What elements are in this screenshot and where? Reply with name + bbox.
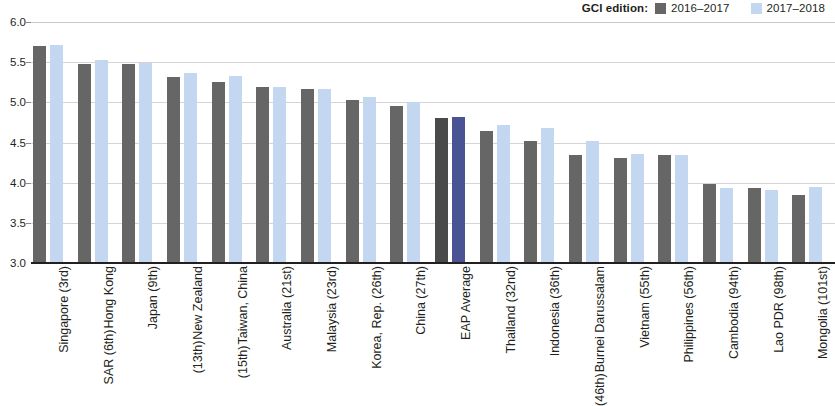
x-axis-tick-label: Lao PDR (98th) (772, 266, 835, 400)
bar-2017-2018[interactable] (229, 76, 242, 263)
chart-legend: GCI edition: 2016–2017 2017–2018 (582, 2, 825, 14)
y-axis-tick-label: 5.0 (0, 96, 26, 108)
bar-2016-2017[interactable] (703, 184, 716, 263)
bar-2017-2018[interactable] (318, 89, 331, 263)
bar-groups (31, 22, 835, 263)
bar-2016-2017[interactable] (390, 106, 403, 263)
bar-2017-2018[interactable] (497, 125, 510, 263)
bar-2016-2017[interactable] (658, 155, 671, 263)
bar-group[interactable] (210, 22, 255, 263)
bar-2016-2017[interactable] (435, 118, 448, 263)
bar-2016-2017[interactable] (614, 158, 627, 263)
x-axis-tick-label: China (27th) (414, 266, 548, 400)
x-axis-tick-label: Taiwan, China(15th) (236, 266, 370, 400)
bar-2017-2018[interactable] (675, 155, 688, 263)
bar-2016-2017[interactable] (792, 195, 805, 263)
bar-2017-2018[interactable] (184, 73, 197, 263)
bar-2016-2017[interactable] (167, 77, 180, 263)
bar-2016-2017[interactable] (256, 87, 269, 263)
x-axis-labels: Singapore (3rd)Hong KongSAR (6th)Japan (… (31, 266, 835, 400)
bar-2016-2017[interactable] (122, 64, 135, 263)
x-axis-tick-label: Philippines (56th) (682, 266, 816, 400)
x-axis-tick-label: Malaysia (23rd) (325, 266, 459, 400)
bar-2017-2018[interactable] (273, 87, 286, 263)
bar-group[interactable] (701, 22, 746, 263)
bar-2017-2018[interactable] (50, 45, 63, 263)
bar-2017-2018[interactable] (586, 141, 599, 263)
bar-2017-2018[interactable] (452, 117, 465, 263)
bar-group[interactable] (790, 22, 835, 263)
bar-2016-2017[interactable] (33, 46, 46, 263)
bar-group[interactable] (254, 22, 299, 263)
bar-group[interactable] (299, 22, 344, 263)
y-axis-tick-label: 3.0 (0, 257, 26, 269)
legend-swatch-prev (655, 3, 666, 14)
bar-group[interactable] (612, 22, 657, 263)
y-axis-tick-label: 3.5 (0, 217, 26, 229)
plot-area (31, 22, 835, 263)
x-axis-tick-label: Thailand (32nd) (504, 266, 638, 400)
legend-title: GCI edition: (582, 2, 648, 14)
x-axis-tick-label: Korea, Rep. (26th) (370, 266, 504, 400)
legend-entry-prev: 2016–2017 (655, 2, 729, 14)
bar-2016-2017[interactable] (748, 188, 761, 263)
legend-entry-curr: 2017–2018 (751, 2, 825, 14)
bar-group[interactable] (656, 22, 701, 263)
bar-2017-2018[interactable] (139, 63, 152, 263)
bar-group[interactable] (388, 22, 433, 263)
bar-2017-2018[interactable] (720, 188, 733, 263)
bar-2016-2017[interactable] (212, 82, 225, 263)
bar-2017-2018[interactable] (631, 154, 644, 263)
y-axis-tick-label: 4.5 (0, 137, 26, 149)
x-axis-tick-label: Australia (21st) (280, 266, 414, 400)
x-axis-tick-label: Japan (9th) (146, 266, 280, 400)
y-axis-tick-label: 6.0 (0, 16, 26, 28)
bar-group[interactable] (31, 22, 76, 263)
legend-label-curr: 2017–2018 (767, 2, 825, 14)
bar-2017-2018[interactable] (95, 60, 108, 263)
bar-group[interactable] (344, 22, 389, 263)
bar-2016-2017[interactable] (346, 100, 359, 263)
x-axis-tick-label: Hong KongSAR (6th) (102, 266, 236, 400)
x-axis-tick-label: Indonesia (36th) (548, 266, 682, 400)
bar-2017-2018[interactable] (363, 97, 376, 263)
x-axis-tick-label: Cambodia (94th) (727, 266, 835, 400)
bar-2016-2017[interactable] (480, 131, 493, 263)
bar-2017-2018[interactable] (809, 187, 822, 263)
bar-2017-2018[interactable] (407, 102, 420, 263)
x-axis-tick-label: New Zealand(13th) (191, 266, 325, 400)
bar-2017-2018[interactable] (765, 190, 778, 263)
x-axis-tick-label: EAP Average (459, 266, 593, 400)
y-axis-tick-label: 4.0 (0, 177, 26, 189)
x-axis-tick-label: Burnei Darussalam(46th) (593, 266, 727, 400)
bar-2016-2017[interactable] (524, 141, 537, 263)
bar-group[interactable] (165, 22, 210, 263)
x-axis-tick-label: Mongolia (101st) (816, 266, 835, 400)
bar-group[interactable] (567, 22, 612, 263)
x-axis-tick-label: Singapore (3rd) (57, 266, 191, 400)
x-axis-baseline (31, 262, 835, 264)
bar-group[interactable] (433, 22, 478, 263)
bar-group[interactable] (522, 22, 567, 263)
y-axis-tick-label: 5.5 (0, 56, 26, 68)
bar-2016-2017[interactable] (301, 89, 314, 263)
bar-2016-2017[interactable] (78, 64, 91, 263)
bar-2016-2017[interactable] (569, 155, 582, 263)
legend-label-prev: 2016–2017 (671, 2, 729, 14)
bar-group[interactable] (120, 22, 165, 263)
bar-group[interactable] (478, 22, 523, 263)
bar-group[interactable] (76, 22, 121, 263)
bar-group[interactable] (746, 22, 791, 263)
legend-swatch-curr (751, 3, 762, 14)
x-axis-tick-label: Vietnam (55th) (638, 266, 772, 400)
bar-2017-2018[interactable] (541, 128, 554, 263)
